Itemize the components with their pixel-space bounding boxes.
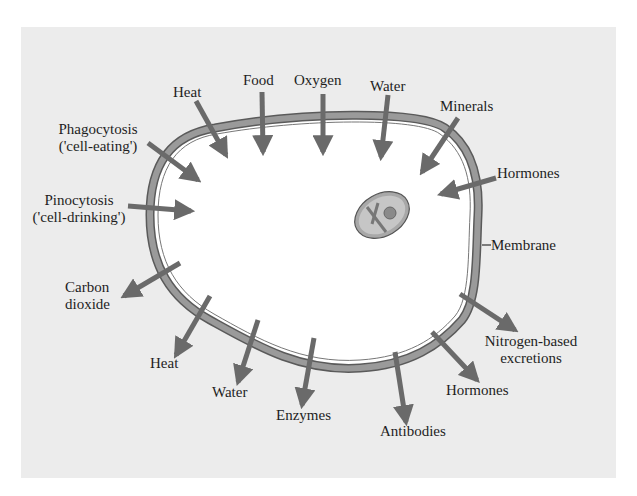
label-input-minerals: Minerals	[440, 98, 493, 115]
label-input-heat: Heat	[173, 84, 201, 101]
label-output-enzymes: Enzymes	[276, 407, 331, 424]
cell	[150, 115, 478, 368]
label-membrane: Membrane	[491, 237, 556, 254]
label-output-antibodies: Antibodies	[380, 423, 446, 440]
label-input-hormones: Hormones	[497, 165, 560, 182]
label-output-heat: Heat	[150, 355, 178, 372]
label-output-water: Water	[212, 384, 247, 401]
label-input-phagocytosis: Phagocytosis ('cell-eating')	[50, 121, 146, 155]
label-input-water: Water	[370, 78, 405, 95]
label-output-hormones: Hormones	[446, 382, 509, 399]
label-input-pinocytosis: Pinocytosis ('cell-drinking')	[22, 192, 136, 226]
label-input-oxygen: Oxygen	[294, 72, 342, 89]
label-input-food: Food	[243, 72, 274, 89]
label-output-nitrogen-excretions: Nitrogen-based excretions	[473, 333, 589, 367]
label-output-carbon-dioxide: Carbon dioxide	[65, 279, 110, 313]
